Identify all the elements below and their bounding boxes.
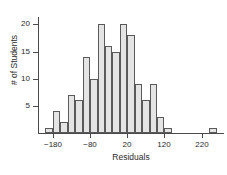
x-axis-tick-label: −80 [70,140,110,149]
histogram-figure: 5101520 −180−8020120220 Residuals # of S… [0,0,227,175]
y-axis-tick [33,79,38,80]
histogram-bar [90,79,97,133]
x-axis-title: Residuals [38,152,224,162]
histogram-bar [60,122,67,133]
x-axis-tick-label: −180 [33,140,73,149]
histogram-bar [75,100,82,133]
histogram-bar [105,46,112,133]
histogram-bar [45,128,52,133]
histogram-bar [164,128,171,133]
histogram-bar [98,24,105,133]
x-axis-tick [90,134,91,138]
x-axis-tick [202,134,203,138]
histogram-bar [150,84,157,133]
histogram-bar [135,84,142,133]
histogram-bar [157,117,164,133]
y-axis-tick-label: 5 [0,102,30,110]
histogram-bar [83,57,90,133]
y-axis-tick [33,52,38,53]
x-axis-tick [127,134,128,138]
histogram-bar [209,128,216,133]
x-axis-line [38,133,224,134]
y-axis-tick [33,106,38,107]
x-axis-tick [164,134,165,138]
x-axis-tick [53,134,54,138]
y-axis-title: # of Students [9,20,19,100]
histogram-bar [53,111,60,133]
histogram-bar [68,95,75,133]
x-axis-tick-label: 220 [182,140,222,149]
plot-area: 5101520 −180−8020120220 Residuals # of S… [0,0,227,175]
x-axis-tick-label: 120 [144,140,184,149]
histogram-bar [142,100,149,133]
histogram-bar [120,24,127,133]
histogram-bar [112,52,119,133]
x-axis-tick-label: 20 [107,140,147,149]
y-axis-tick [33,24,38,25]
histogram-bar [127,35,134,133]
y-axis-line [38,17,39,134]
